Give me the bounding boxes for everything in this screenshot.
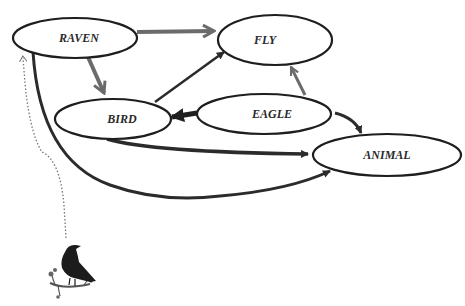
- raven-illustration-icon: [49, 245, 97, 299]
- edge-bird-animal: [107, 139, 308, 154]
- edge-raven-bird: [88, 57, 104, 93]
- concept-graph: RAVEN FLY BIRD EAGLE ANIMAL: [0, 0, 465, 306]
- node-raven: RAVEN: [13, 18, 137, 58]
- node-bird: BIRD: [55, 99, 171, 139]
- node-fly: FLY: [218, 15, 332, 65]
- node-animal: ANIMAL: [313, 134, 461, 176]
- node-label-animal: ANIMAL: [362, 148, 410, 162]
- node-label-eagle: EAGLE: [251, 107, 292, 121]
- edge-bird-fly: [155, 52, 224, 102]
- node-label-bird: BIRD: [106, 112, 137, 126]
- node-label-raven: RAVEN: [58, 31, 100, 45]
- edge-eagle-fly: [291, 67, 305, 95]
- edge-raven-fly: [137, 31, 214, 32]
- edge-eagle-bird: [172, 113, 197, 117]
- node-label-fly: FLY: [253, 33, 278, 47]
- node-eagle: EAGLE: [197, 94, 331, 134]
- edge-eagle-animal: [335, 113, 361, 133]
